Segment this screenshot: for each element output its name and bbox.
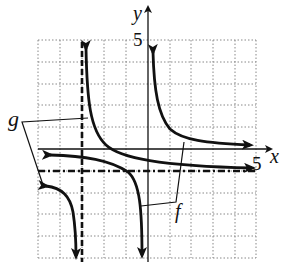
y-tick-label: 5 [133, 29, 143, 50]
g-label: g [8, 106, 19, 131]
y-axis-label: y [131, 2, 142, 25]
f-label: f [175, 200, 183, 223]
x-axis-label: x [269, 145, 279, 167]
g-leader-lines [22, 118, 88, 188]
g-left-branch [46, 186, 76, 256]
g-right-branch [86, 48, 252, 168]
x-tick-label: 5 [252, 153, 262, 174]
graph: y 5 x 5 g f [0, 0, 287, 266]
